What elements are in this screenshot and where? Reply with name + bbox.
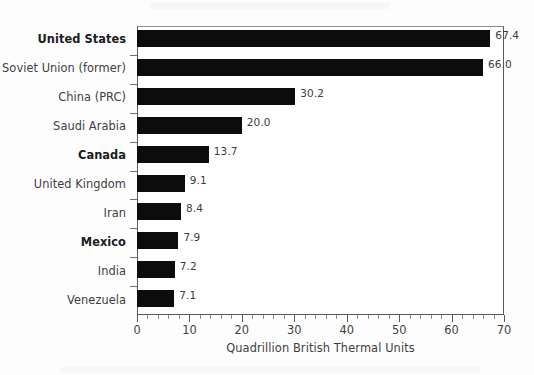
bar-value-label: 30.2	[300, 87, 324, 99]
x-axis-minor-tick	[221, 315, 222, 319]
bar-row: 7.2	[137, 257, 504, 286]
bar	[137, 146, 209, 163]
bar	[137, 203, 181, 220]
x-axis-minor-tick	[483, 315, 484, 319]
x-axis-tick-label: 50	[392, 323, 407, 337]
scan-noise	[60, 367, 480, 373]
bar-row: 8.4	[137, 199, 504, 228]
bar	[137, 117, 242, 134]
bar-value-label: 67.4	[495, 29, 519, 41]
bar-row: 7.9	[137, 228, 504, 257]
bar-value-label: 7.2	[180, 260, 197, 272]
bar	[137, 261, 175, 278]
x-axis-tick-label: 70	[497, 323, 512, 337]
category-label: Iran	[0, 206, 126, 220]
bar-value-label: 7.9	[183, 231, 200, 243]
x-axis-minor-tick	[441, 315, 442, 319]
y-axis-tick	[130, 171, 137, 172]
bar	[137, 232, 178, 249]
bar-value-label: 13.7	[214, 145, 238, 157]
category-label: Canada	[0, 148, 126, 162]
category-label: Saudi Arabia	[0, 119, 126, 133]
x-axis-minor-tick	[200, 315, 201, 319]
x-axis-minor-tick	[473, 315, 474, 319]
x-axis-minor-tick	[158, 315, 159, 319]
x-axis-major-tick	[242, 315, 243, 322]
bar	[137, 175, 185, 192]
x-axis-major-tick	[347, 315, 348, 322]
x-axis-minor-tick	[462, 315, 463, 319]
x-axis-major-tick	[399, 315, 400, 322]
x-axis-minor-tick	[378, 315, 379, 319]
category-label: United States	[0, 32, 126, 46]
x-axis-minor-tick	[147, 315, 148, 319]
x-axis-minor-tick	[263, 315, 264, 319]
x-axis-minor-tick	[284, 315, 285, 319]
y-axis-tick	[130, 55, 137, 56]
y-axis-tick	[130, 228, 137, 229]
x-axis-tick-label: 40	[339, 323, 354, 337]
x-axis-major-tick	[294, 315, 295, 322]
x-axis-minor-tick	[326, 315, 327, 319]
x-axis-tick-label: 60	[444, 323, 459, 337]
x-axis-minor-tick	[410, 315, 411, 319]
bar-row: 9.1	[137, 171, 504, 200]
scan-noise	[150, 2, 390, 9]
x-axis-minor-tick	[168, 315, 169, 319]
x-axis-minor-tick	[389, 315, 390, 319]
category-label: Soviet Union (former)	[0, 61, 126, 75]
x-axis-minor-tick	[315, 315, 316, 319]
category-label: China (PRC)	[0, 90, 126, 104]
y-axis-tick	[130, 257, 137, 258]
x-axis-tick-labels: 010203040506070	[137, 323, 504, 339]
category-label: India	[0, 264, 126, 278]
bar-row: 30.2	[137, 84, 504, 113]
y-axis-tick	[130, 142, 137, 143]
x-axis-minor-tick	[420, 315, 421, 319]
bar-value-label: 20.0	[247, 116, 271, 128]
x-axis-minor-tick	[368, 315, 369, 319]
bar-value-label: 8.4	[186, 202, 203, 214]
category-axis-labels: United StatesSoviet Union (former)China …	[0, 26, 133, 315]
y-axis-tick	[130, 199, 137, 200]
bar	[137, 88, 295, 105]
x-axis-major-tick	[137, 315, 138, 322]
bar	[137, 30, 490, 47]
bar-row: 13.7	[137, 142, 504, 171]
x-axis-minor-tick	[305, 315, 306, 319]
x-axis-minor-tick	[494, 315, 495, 319]
x-axis-tick-label: 20	[235, 323, 250, 337]
x-axis-tick-label: 0	[133, 323, 140, 337]
x-axis-tick-label: 10	[182, 323, 197, 337]
bar-row: 67.4	[137, 26, 504, 55]
x-axis-major-tick	[189, 315, 190, 322]
x-axis-tick-label: 30	[287, 323, 302, 337]
category-label: Venezuela	[0, 293, 126, 307]
y-axis-tick	[130, 286, 137, 287]
bars-layer: 67.466.030.220.013.79.18.47.97.27.1	[137, 26, 504, 315]
x-axis-minor-tick	[210, 315, 211, 319]
bar-value-label: 66.0	[488, 58, 512, 70]
bar-row: 66.0	[137, 55, 504, 84]
category-label: United Kingdom	[0, 177, 126, 191]
x-axis-title: Quadrillion British Thermal Units	[137, 341, 504, 355]
x-axis-minor-tick	[179, 315, 180, 319]
x-axis-minor-tick	[357, 315, 358, 319]
chart-figure: United StatesSoviet Union (former)China …	[0, 0, 534, 375]
x-axis-minor-tick	[252, 315, 253, 319]
x-axis-ticks	[137, 315, 504, 323]
bar	[137, 59, 483, 76]
x-axis-minor-tick	[431, 315, 432, 319]
x-axis-major-tick	[452, 315, 453, 322]
bar-row: 20.0	[137, 113, 504, 142]
category-label: Mexico	[0, 235, 126, 249]
bar-value-label: 9.1	[190, 174, 207, 186]
y-axis-tick	[130, 113, 137, 114]
bar	[137, 290, 174, 307]
x-axis-minor-tick	[231, 315, 232, 319]
bar-value-label: 7.1	[179, 289, 196, 301]
x-axis-major-tick	[504, 315, 505, 322]
x-axis-minor-tick	[273, 315, 274, 319]
bar-row: 7.1	[137, 286, 504, 315]
y-axis-tick	[130, 84, 137, 85]
